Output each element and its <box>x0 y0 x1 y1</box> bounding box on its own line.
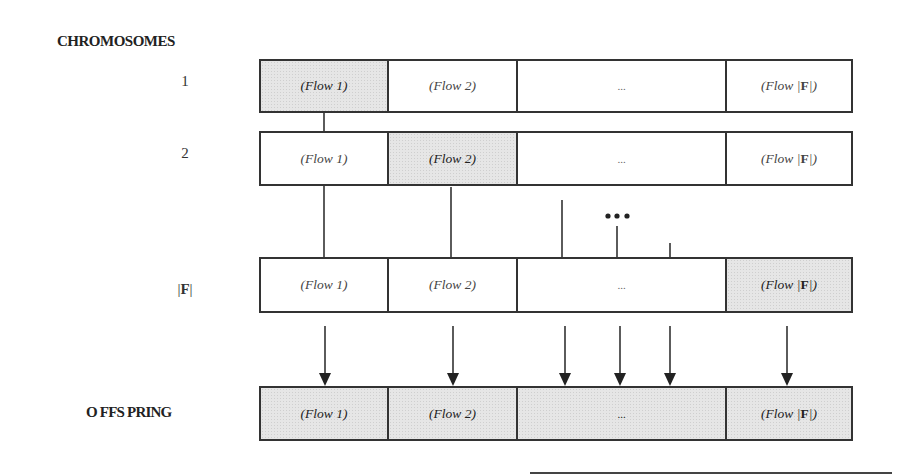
flow-f-prefix: (Flow | <box>761 151 800 167</box>
chromosome-1-ellipsis: ... <box>518 61 727 111</box>
flow-f-prefix: (Flow | <box>761 277 800 293</box>
arrowheads <box>319 373 793 386</box>
offspring-row: (Flow 1) (Flow 2) ... (Flow |F|) <box>259 386 853 441</box>
flow-f-suffix: |) <box>809 406 817 422</box>
chromosome-2-flow-f: (Flow |F|) <box>727 133 851 184</box>
flow-f-prefix: (Flow | <box>761 406 800 422</box>
chromosome-f-ellipsis: ... <box>518 259 727 311</box>
chromosome-1-flow-f: (Flow |F|) <box>727 61 851 111</box>
bottom-rule-divider <box>530 472 892 474</box>
flow-f-suffix: |) <box>809 78 817 94</box>
chromosome-row-f: (Flow 1) (Flow 2) ... (Flow |F|) <box>259 257 853 313</box>
chromosome-2-ellipsis: ... <box>518 133 727 184</box>
chromosome-f-flow-2: (Flow 2) <box>389 259 518 311</box>
offspring-flow-1: (Flow 1) <box>261 388 389 439</box>
flow-f-bold: F <box>800 78 808 94</box>
flow-f-bold: F <box>800 277 808 293</box>
flow-f-bold: F <box>800 406 808 422</box>
chromosome-row-1: (Flow 1) (Flow 2) ... (Flow |F|) <box>259 59 853 113</box>
chromosome-f-flow-f: (Flow |F|) <box>727 259 851 311</box>
chromosome-2-flow-2: (Flow 2) <box>389 133 518 184</box>
flow-f-suffix: |) <box>809 277 817 293</box>
offspring-flow-2: (Flow 2) <box>389 388 518 439</box>
offspring-ellipsis: ... <box>518 388 727 439</box>
chromosome-1-flow-2: (Flow 2) <box>389 61 518 111</box>
ellipsis-dots-icon <box>605 213 629 218</box>
chromosome-row-2: (Flow 1) (Flow 2) ... (Flow |F|) <box>259 131 853 186</box>
flow-f-prefix: (Flow | <box>761 78 800 94</box>
flow-f-suffix: |) <box>809 151 817 167</box>
flow-f-bold: F <box>800 151 808 167</box>
chromosome-1-flow-1: (Flow 1) <box>261 61 389 111</box>
offspring-flow-f: (Flow |F|) <box>727 388 851 439</box>
chromosome-f-flow-1: (Flow 1) <box>261 259 389 311</box>
chromosome-2-flow-1: (Flow 1) <box>261 133 389 184</box>
